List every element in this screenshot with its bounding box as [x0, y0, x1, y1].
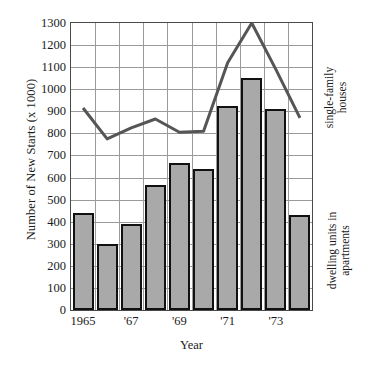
x-axis-title: Year — [70, 338, 313, 353]
x-axis-tick-labels: 1965'67'69'71'73 — [70, 314, 313, 334]
series-label-dwelling-units-in-apartments: dwelling units in apartments — [326, 171, 351, 331]
series-label-single-family-houses: single-family houses — [323, 23, 348, 173]
y-tick-label: 500 — [47, 192, 66, 207]
y-tick-label: 300 — [47, 236, 66, 251]
y-tick-label: 1100 — [41, 60, 66, 75]
x-tick-label: '71 — [220, 314, 235, 329]
y-tick-label: 100 — [47, 280, 66, 295]
y-tick-label: 900 — [47, 104, 66, 119]
series-label-single-family-houses-line1: single-family — [323, 67, 335, 128]
y-tick-label: 700 — [47, 148, 66, 163]
x-tick-label: '67 — [124, 314, 139, 329]
plot-inner — [71, 23, 312, 310]
y-tick-label: 800 — [47, 126, 66, 141]
line-series-single-family-houses — [71, 23, 312, 310]
x-tick-label: '69 — [172, 314, 187, 329]
y-tick-label: 1000 — [41, 82, 66, 97]
series-label-single-family-houses-line2: houses — [335, 23, 348, 173]
series-label-dwelling-units-line1: dwelling units in — [326, 212, 338, 289]
y-tick-label: 400 — [47, 214, 66, 229]
y-tick-label: 200 — [47, 258, 66, 273]
line-path — [83, 23, 300, 139]
y-axis-tick-labels: 0100200300400500600700800900100011001200… — [22, 22, 66, 311]
y-tick-label: 600 — [47, 170, 66, 185]
x-tick-label: '73 — [268, 314, 283, 329]
series-label-dwelling-units-line2: apartments — [338, 171, 351, 331]
plot-area — [70, 22, 313, 311]
y-tick-label: 0 — [60, 303, 66, 318]
y-tick-label: 1300 — [41, 16, 66, 31]
chart-figure: Number of New Starts (x 1000) 0100200300… — [0, 0, 374, 367]
x-tick-label: 1965 — [71, 314, 96, 329]
y-tick-label: 1200 — [41, 38, 66, 53]
